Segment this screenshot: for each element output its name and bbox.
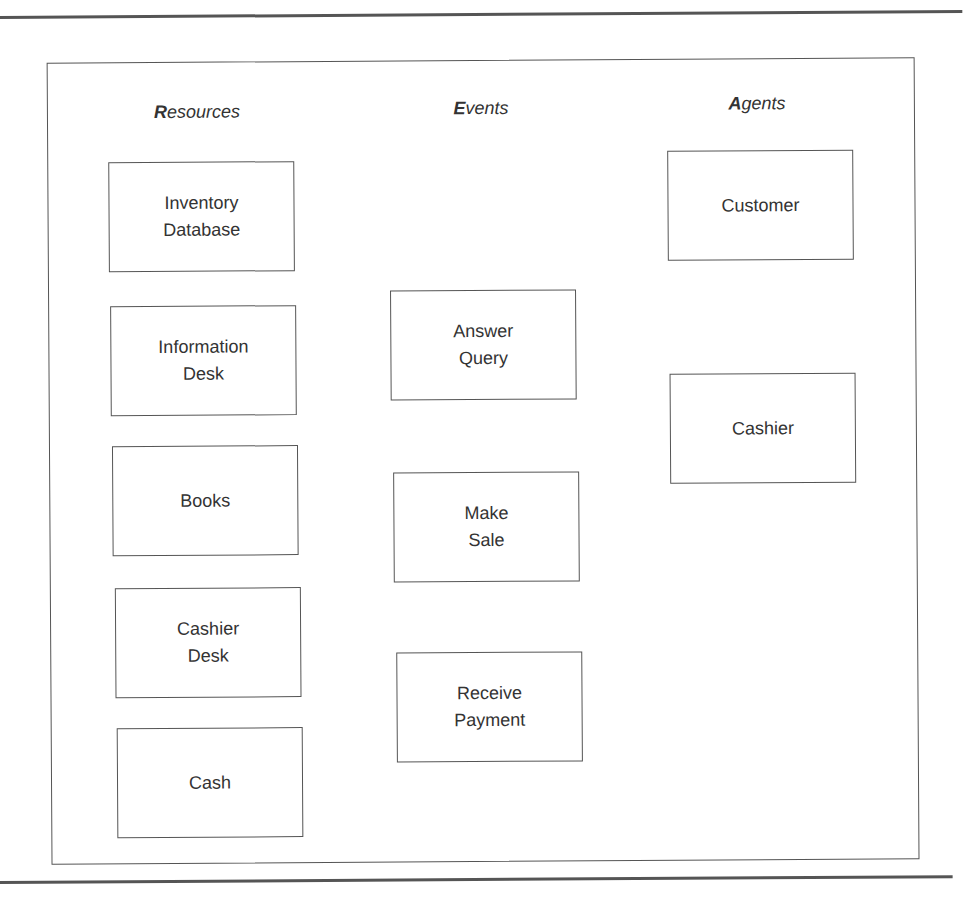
resource-cashier-desk: Cashier Desk [115,587,302,698]
resource-information-desk: Information Desk [110,305,297,416]
agent-cashier: Cashier [670,373,857,484]
resource-inventory-database: Inventory Database [108,161,295,272]
agents-header-initial: A [728,93,741,113]
events-header-initial: E [453,98,465,118]
events-header-rest: vents [465,98,508,118]
agents-header-rest: gents [741,93,785,113]
box-label: Customer [721,192,799,219]
events-header: Events [388,97,574,118]
resource-cash: Cash [117,727,304,838]
top-rule [0,10,962,19]
box-label: Receive Payment [454,680,525,734]
box-label: Inventory Database [163,189,240,243]
box-label: Information Desk [158,333,248,388]
box-label: Cashier Desk [177,615,239,669]
box-label: Answer Query [453,318,513,372]
bottom-rule [0,875,953,884]
agents-header: Agents [664,93,850,114]
diagram-canvas: Resources Events Agents Inventory Databa… [0,0,963,901]
event-receive-payment: Receive Payment [396,651,583,762]
agent-customer: Customer [667,150,854,261]
resources-header: Resources [104,101,290,122]
event-make-sale: Make Sale [393,471,580,582]
box-label: Cash [189,769,231,796]
box-label: Cashier [732,415,794,442]
resource-books: Books [112,445,299,556]
box-label: Books [180,487,230,514]
resources-header-rest: esources [167,101,240,121]
resources-header-initial: R [154,102,167,122]
event-answer-query: Answer Query [390,289,577,400]
box-label: Make Sale [464,500,508,554]
